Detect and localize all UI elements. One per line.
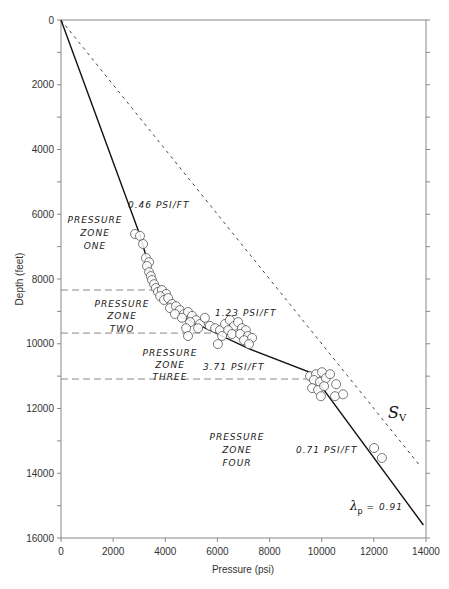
zone3-label-line1: PRESSURE: [143, 348, 198, 358]
sv-label-sub: V: [398, 412, 407, 423]
zone2-label-line1: PRESSURE: [95, 299, 150, 309]
data-point-circle: [139, 240, 148, 249]
lambda-label: λp = 0.91: [349, 499, 403, 516]
x-tick-label: 12000: [360, 546, 388, 557]
y-tick-label: 6000: [32, 209, 55, 220]
x-axis-title: Pressure (psi): [212, 564, 274, 575]
slope-label-zone1: 0.46 PSI/FT: [128, 200, 190, 210]
annotations: 0.46 PSI/FT PRESSURE ZONE ONE PRESSURE Z…: [68, 200, 407, 516]
data-point-circle: [339, 390, 348, 399]
data-point-circle: [194, 324, 203, 333]
data-point-circle: [370, 444, 379, 453]
data-points: [131, 230, 387, 463]
zone4-label-line1: PRESSURE: [210, 432, 265, 442]
data-point-circle: [331, 392, 340, 401]
data-point-circle: [245, 340, 254, 349]
lambda-symbol: λ: [349, 499, 358, 513]
data-point-circle: [200, 313, 209, 322]
y-tick-label: 12000: [26, 403, 54, 414]
slope-label-zone3: 3.71 PSI/FT: [203, 362, 265, 372]
y-tick-label: 16000: [26, 533, 54, 544]
sv-label-main: S: [388, 403, 399, 422]
y-tick-label: 10000: [26, 338, 54, 349]
y-tick-label: 14000: [26, 468, 54, 479]
lambda-value: = 0.91: [363, 502, 403, 512]
data-point-circle: [218, 332, 227, 341]
zone2-label-line3: TWO: [110, 324, 134, 334]
zone1-label-line3: ONE: [84, 241, 107, 251]
y-tick-label: 2000: [32, 79, 55, 90]
zone3-label-line2: ZONE: [154, 360, 185, 370]
slope-label-zone2: 1.23 PSI/FT: [215, 308, 277, 318]
y-tick-label: 0: [48, 15, 54, 26]
x-tick-label: 4000: [154, 546, 177, 557]
sv-label: SV: [388, 403, 407, 423]
x-tick-label: 8000: [258, 546, 281, 557]
data-point-circle: [213, 340, 222, 349]
x-tick-label: 6000: [206, 546, 229, 557]
zone1-label-line1: PRESSURE: [68, 215, 123, 225]
zone4-label-line2: ZONE: [221, 445, 252, 455]
data-point-circle: [184, 332, 193, 341]
y-axis-title: Depth (feet): [14, 253, 25, 306]
data-point-circle: [326, 370, 335, 379]
zone4-label-line3: FOUR: [222, 458, 251, 468]
x-tick-label: 2000: [102, 546, 125, 557]
x-tick-label: 0: [58, 546, 64, 557]
y-tick-label: 4000: [32, 144, 55, 155]
sv-dashed-line: [61, 20, 421, 467]
zone1-label-line2: ZONE: [79, 228, 110, 238]
y-tick-label: 8000: [32, 274, 55, 285]
data-point-circle: [377, 454, 386, 463]
pressure-depth-chart: 0200040006000800010000120001400016000020…: [0, 0, 449, 589]
x-tick-label: 14000: [412, 546, 440, 557]
data-point-circle: [136, 231, 145, 240]
slope-label-zone4: 0.71 PSI/FT: [296, 445, 358, 455]
data-point-circle: [228, 330, 237, 339]
data-point-circle: [332, 380, 341, 389]
zone3-label-line3: THREE: [153, 372, 188, 382]
data-point-circle: [320, 382, 329, 391]
zone2-label-line2: ZONE: [106, 311, 137, 321]
data-point-circle: [178, 313, 187, 322]
data-point-circle: [316, 392, 325, 401]
x-tick-label: 10000: [308, 546, 336, 557]
